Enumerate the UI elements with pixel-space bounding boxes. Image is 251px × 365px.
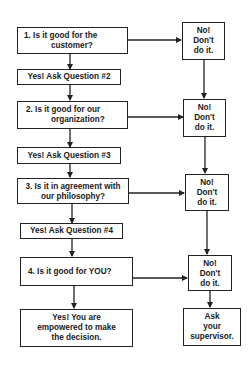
no-box-2-line2: Don't: [184, 113, 225, 123]
no-box-3: No! Don't do it.: [185, 174, 229, 211]
no-box-2: No! Don't do it.: [183, 99, 226, 137]
question-4-line1: 4. Is it good for YOU?: [28, 267, 132, 277]
question-1-line2: customer?: [24, 41, 127, 51]
yes-step-2-box: Yes! Ask Question #2: [17, 69, 121, 85]
no-box-4-line2: Don't: [189, 269, 231, 279]
no-box-1: No! Don't do it.: [182, 22, 225, 60]
question-1-box: 1. Is it good for the customer?: [17, 27, 128, 54]
question-2-line1: 2. Is it good for our: [26, 105, 127, 115]
question-4-box: 4. Is it good for YOU?: [20, 257, 133, 286]
no-box-2-line1: No!: [184, 103, 225, 113]
no-box-4: No! Don't do it.: [188, 255, 232, 291]
no-box-4-line1: No!: [189, 259, 231, 269]
no-box-1-line2: Don't: [183, 36, 224, 46]
no-box-2-line3: do it.: [184, 123, 225, 133]
final-no-line3: supervisor.: [184, 332, 240, 342]
question-3-line1: 3. Is it in agreement with: [18, 182, 128, 192]
final-no-line1: Ask: [184, 312, 240, 322]
yes-step-4-box: Yes! Ask Question #4: [20, 223, 123, 239]
no-box-3-line1: No!: [186, 178, 228, 188]
no-box-4-line3: do it.: [189, 279, 231, 289]
question-1-line1: 1. Is it good for the: [24, 31, 127, 41]
yes-step-2-label: Yes! Ask Question #2: [18, 72, 120, 82]
question-3-line2: our philosophy?: [18, 192, 128, 202]
question-2-box: 2. Is it good for our organization?: [17, 101, 128, 129]
no-box-3-line3: do it.: [186, 198, 228, 208]
final-yes-line3: the decision.: [21, 333, 132, 343]
final-yes-box: Yes! You are empowered to make the decis…: [20, 309, 133, 347]
no-box-3-line2: Don't: [186, 188, 228, 198]
final-no-box: Ask your supervisor.: [183, 308, 241, 346]
yes-step-3-label: Yes! Ask Question #3: [18, 151, 120, 161]
yes-step-3-box: Yes! Ask Question #3: [17, 147, 121, 164]
question-3-box: 3. Is it in agreement with our philosoph…: [17, 178, 129, 204]
no-box-1-line1: No!: [183, 26, 224, 36]
question-2-line2: organization?: [26, 115, 127, 125]
no-box-1-line3: do it.: [183, 46, 224, 56]
final-no-line2: your: [184, 322, 240, 332]
final-yes-line2: empowered to make: [21, 323, 132, 333]
yes-step-4-label: Yes! Ask Question #4: [21, 226, 122, 236]
final-yes-line1: Yes! You are: [21, 313, 132, 323]
